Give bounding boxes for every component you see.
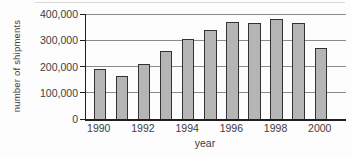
- y-tick-label-0: 0: [72, 113, 78, 125]
- shipments-bar-chart: number of shipments 0100,000200,000300,0…: [0, 0, 351, 157]
- x-tick-label-1996: 1996: [220, 122, 243, 134]
- x-tick-label-1992: 1992: [131, 122, 154, 134]
- y-tick-label-400,000: 400,000: [40, 8, 78, 20]
- y-axis-title: number of shipments: [11, 20, 22, 113]
- bar-1998: [270, 19, 283, 119]
- bar-1994: [182, 39, 195, 119]
- x-tick-label-1994: 1994: [175, 122, 198, 134]
- y-tick-label-300,000: 300,000: [40, 34, 78, 46]
- bar-1990: [94, 69, 107, 119]
- x-tick-label-1990: 1990: [87, 122, 110, 134]
- bar-2000: [315, 48, 328, 119]
- bar-1991: [116, 76, 129, 119]
- plot-area: [85, 14, 346, 121]
- y-tick-mark: [80, 40, 86, 41]
- bar-1993: [160, 51, 173, 119]
- figure-top-border: [35, 2, 345, 3]
- y-tick-mark: [80, 14, 86, 15]
- x-tick-label-1998: 1998: [264, 122, 287, 134]
- y-tick-mark: [80, 92, 86, 93]
- y-tick-mark: [80, 66, 86, 67]
- bar-1995: [204, 30, 217, 119]
- y-tick-label-100,000: 100,000: [40, 87, 78, 99]
- y-tick-label-200,000: 200,000: [40, 61, 78, 73]
- y-tick-mark: [80, 119, 86, 120]
- x-tick-label-2000: 2000: [308, 122, 331, 134]
- x-axis-title: year: [195, 137, 215, 149]
- bar-1997: [248, 23, 261, 119]
- gridline-400,000: [86, 14, 346, 15]
- bar-1999: [292, 23, 305, 119]
- bar-1996: [226, 22, 239, 119]
- bar-1992: [138, 64, 151, 119]
